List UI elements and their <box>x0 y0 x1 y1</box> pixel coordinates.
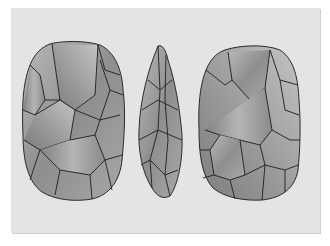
back-view <box>199 46 300 200</box>
handaxe-illustration <box>0 0 330 246</box>
front-view <box>23 42 125 201</box>
side-view <box>139 46 182 198</box>
